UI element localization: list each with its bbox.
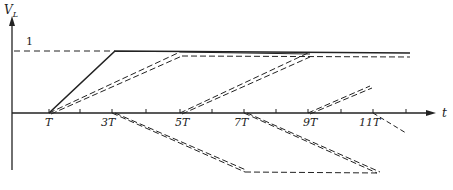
tick-label-5T: 5T (175, 116, 191, 129)
flat-dashed-after-5T (182, 56, 410, 57)
tick-label-11T: 11T (359, 116, 382, 129)
x-axis-label: t (442, 106, 447, 120)
ramp-from-T (49, 52, 182, 114)
x-axis-arrow-icon (426, 110, 436, 116)
tick-label-T: T (45, 116, 54, 129)
solid-response-curve (49, 51, 410, 113)
tick-label-3T: 3T (101, 116, 117, 129)
ramp-from-9T (308, 86, 372, 114)
diagram-canvas: VL t T 3T 5T 7T 9T 11T 1 (0, 0, 453, 190)
voltage-time-diagram: VL t T 3T 5T 7T 9T 11T 1 (0, 0, 453, 190)
flat-dashed-bottom (245, 172, 380, 173)
level-one-label: 1 (26, 35, 33, 48)
y-axis-label: VL (4, 3, 18, 19)
ramp-from-5T (180, 53, 310, 114)
tick-label-9T: 9T (303, 116, 319, 129)
tick-label-7T: 7T (234, 116, 250, 129)
